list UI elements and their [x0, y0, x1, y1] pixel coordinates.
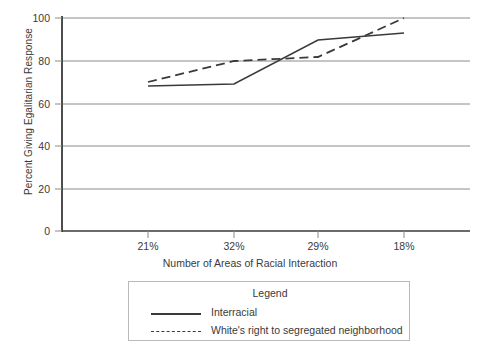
- legend-item-label: Interracial: [211, 306, 257, 318]
- y-tick-label: 40: [16, 141, 50, 151]
- x-tick-label: 29%: [288, 240, 348, 252]
- legend-item-whites-right: White's right to segregated neighborhood: [129, 324, 411, 340]
- chart-figure: Percent Giving Egalitarian Response: [0, 0, 500, 351]
- x-tick-label: 21%: [118, 240, 178, 252]
- x-tick-marks: [148, 231, 404, 238]
- legend-dashed-line-icon: [151, 331, 201, 332]
- x-tick-label: 32%: [204, 240, 264, 252]
- y-tick-label: 60: [16, 99, 50, 109]
- x-axis-title: Number of Areas of Racial Interaction: [0, 257, 500, 269]
- legend-item-interracial: Interracial: [129, 306, 411, 322]
- legend: Legend Interracial White's right to segr…: [128, 281, 410, 341]
- axis-lines: [62, 16, 470, 232]
- y-tick-label: 0: [16, 226, 50, 236]
- legend-item-label: White's right to segregated neighborhood: [211, 324, 403, 336]
- x-tick-label: 18%: [374, 240, 434, 252]
- y-tick-marks: [55, 18, 62, 231]
- legend-solid-line-icon: [151, 313, 201, 315]
- series-line-whites-right: [148, 18, 404, 82]
- legend-title: Legend: [129, 287, 411, 299]
- y-tick-label: 80: [16, 56, 50, 66]
- gridlines: [62, 18, 470, 189]
- y-tick-label: 100: [16, 13, 50, 23]
- y-tick-label: 20: [16, 184, 50, 194]
